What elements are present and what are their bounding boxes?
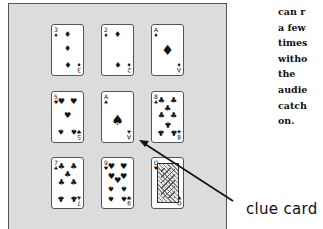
text-line: on. xyxy=(278,113,323,129)
text-line: the xyxy=(278,66,323,82)
text-line: a few xyxy=(278,20,323,36)
text-line: witho xyxy=(278,51,323,67)
text-line: times xyxy=(278,35,323,51)
arrow-icon xyxy=(0,0,323,229)
text-line: catch xyxy=(278,98,323,114)
text-line: audie xyxy=(278,82,323,98)
clue-card-label: clue card xyxy=(246,200,317,218)
text-line: can r xyxy=(278,4,323,20)
body-text-column: can r a few times witho the audie catch … xyxy=(278,4,323,129)
